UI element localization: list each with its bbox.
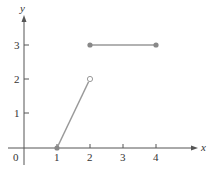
- y-tick-label: 3: [14, 39, 20, 51]
- x-tick-label: 2: [87, 151, 93, 163]
- x-tick-label: 1: [54, 151, 60, 163]
- x-tick-label: 4: [153, 151, 159, 163]
- y-ticks: 1 2 3: [14, 39, 29, 119]
- y-axis-arrow-icon: [22, 15, 27, 22]
- x-tick-label: 3: [120, 151, 126, 163]
- x-axis-arrow-icon: [191, 146, 198, 151]
- x-axis-label: x: [200, 141, 206, 153]
- piecewise-function-plot: x y 0 1 2 3 4 1 2 3: [0, 0, 212, 171]
- segment-2: [87, 42, 158, 47]
- y-tick-label: 2: [14, 73, 20, 85]
- closed-point-icon: [54, 145, 59, 150]
- closed-point-icon: [153, 42, 158, 47]
- y-tick-label: 1: [14, 107, 20, 119]
- origin-label: 0: [13, 151, 19, 163]
- open-point-icon: [87, 76, 92, 81]
- segment-1: [54, 76, 92, 150]
- y-axis-label: y: [19, 2, 25, 14]
- closed-point-icon: [87, 42, 92, 47]
- x-ticks: 0 1 2 3 4: [13, 144, 159, 163]
